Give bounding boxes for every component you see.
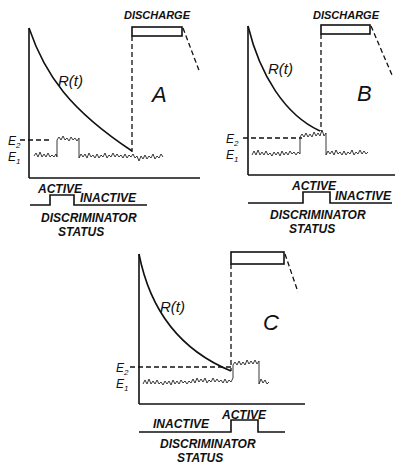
discharge-label: DISCHARGE — [124, 9, 191, 21]
discriminator-diagram: R(t) DISCHARGE A E2 E1 ACTIVE INACTIVE D… — [0, 0, 402, 470]
panel-letter: B — [357, 81, 372, 106]
signal-trace — [143, 360, 269, 385]
inactive-label: INACTIVE — [80, 191, 137, 205]
discharge-decay — [183, 28, 200, 73]
discharge-box — [132, 27, 182, 36]
status-label-1: DISCRIMINATOR — [41, 211, 137, 225]
discharge-decay — [371, 26, 392, 75]
e2-label: E2 — [116, 361, 129, 377]
e2-label: E2 — [8, 134, 21, 150]
panel-letter: A — [150, 82, 167, 107]
e1-label: E1 — [116, 377, 128, 393]
inactive-label: INACTIVE — [335, 189, 392, 203]
panel-a: R(t) DISCHARGE A E2 E1 ACTIVE INACTIVE D… — [8, 9, 200, 239]
panel-c: R(t) C E2 E1 ACTIVE INACTIVE DISCRIMINAT… — [116, 252, 305, 465]
signal-trace — [252, 130, 368, 156]
e1-label: E1 — [226, 148, 238, 164]
status-label-1: DISCRIMINATOR — [160, 437, 256, 451]
decay-curve — [139, 254, 231, 371]
discharge-box — [231, 252, 284, 264]
active-label: ACTIVE — [37, 182, 83, 196]
inactive-label: INACTIVE — [153, 417, 210, 431]
signal-trace — [34, 136, 163, 161]
status-label-2: STATUS — [177, 451, 223, 465]
panel-b: R(t) DISCHARGE B E2 E1 ACTIVE INACTIVE D… — [226, 9, 395, 236]
discharge-label: DISCHARGE — [313, 9, 380, 21]
curve-label: R(t) — [268, 60, 293, 77]
discharge-decay — [285, 254, 298, 292]
status-label-2: STATUS — [289, 222, 335, 236]
e1-label: E1 — [8, 150, 20, 166]
status-label-2: STATUS — [58, 225, 104, 239]
decay-curve — [29, 28, 132, 151]
decay-curve — [248, 26, 320, 131]
e2-label: E2 — [226, 132, 239, 148]
panel-letter: C — [263, 310, 279, 335]
status-label-1: DISCRIMINATOR — [270, 208, 366, 222]
active-label: ACTIVE — [291, 179, 337, 193]
discharge-box — [321, 25, 370, 34]
curve-label: R(t) — [160, 298, 185, 315]
curve-label: R(t) — [58, 72, 83, 89]
